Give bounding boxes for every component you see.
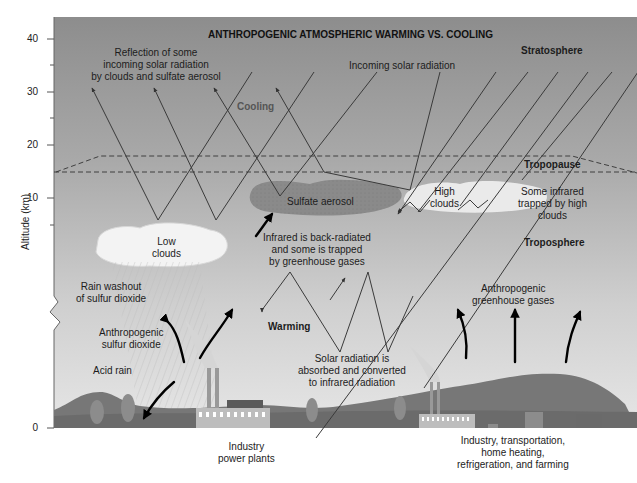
industry-transport-label: Industry, transportation, home heating, … <box>457 435 569 471</box>
y-tick-20: 20 <box>16 139 38 150</box>
diagram-title: ANTHROPOGENIC ATMOSPHERIC WARMING VS. CO… <box>208 29 493 40</box>
stratosphere-label: Stratosphere <box>521 45 583 57</box>
sulfate-aerosol-label: Sulfate aerosol <box>287 196 354 208</box>
y-tick-40: 40 <box>16 33 38 44</box>
reflection-label: Reflection of some incoming solar radiat… <box>86 47 226 83</box>
y-tick-0: 0 <box>16 422 38 433</box>
low-clouds-label: Low clouds <box>152 236 181 260</box>
warming-label: Warming <box>268 321 310 333</box>
anthro-so2-label: Anthropogenic sulfur dioxide <box>99 327 164 351</box>
troposphere-label: Troposphere <box>524 237 585 249</box>
rain-washout-label: Rain washout of sulfur dioxide <box>76 281 146 305</box>
y-axis-title: Altitude (km) <box>20 194 31 250</box>
figure-caption-truncated <box>16 478 196 483</box>
tropopause-label: Tropopause <box>524 159 581 171</box>
y-tick-30: 30 <box>16 86 38 97</box>
backradiated-label: Infrared is back-radiated and some is tr… <box>263 232 371 268</box>
acid-rain-label: Acid rain <box>93 365 132 377</box>
solar-absorbed-label: Solar radiation is absorbed and converte… <box>298 353 406 389</box>
incoming-solar-label: Incoming solar radiation <box>349 60 455 72</box>
industry-power-label: Industry power plants <box>218 441 275 465</box>
high-clouds-label: High clouds <box>430 186 459 210</box>
some-infrared-label: Some infrared trapped by high clouds <box>518 186 587 222</box>
anthro-greenhouse-label: Anthropogenic greenhouse gases <box>472 283 554 307</box>
cooling-label: Cooling <box>237 101 274 113</box>
